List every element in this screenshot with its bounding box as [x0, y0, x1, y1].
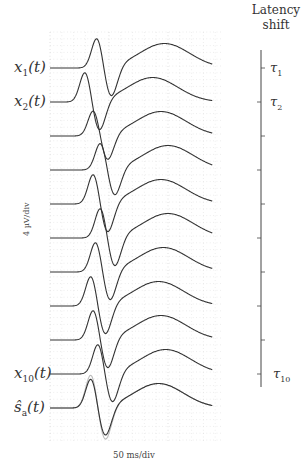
- y-scale-label: 4 µV/div: [22, 202, 31, 236]
- trace-x8t: [50, 277, 212, 334]
- true-template-trace: [50, 375, 212, 439]
- trace-x1t: [50, 39, 212, 96]
- latency-title-line2: shift: [248, 18, 304, 33]
- trace-x2t: [50, 73, 212, 130]
- tau-2-label: τ2: [270, 95, 282, 112]
- trace-x9t: [50, 311, 212, 368]
- label-x1: x1(t): [14, 60, 46, 78]
- latency-title-line1: Latency: [248, 3, 304, 18]
- trace-x7t: [50, 243, 212, 300]
- grid: [50, 32, 222, 442]
- tau-1-label: τ1: [270, 61, 282, 78]
- x-scale-label: 50 ms/div: [113, 450, 155, 460]
- trace-x10t: [50, 345, 212, 402]
- traces: [50, 39, 212, 439]
- tau-10-label: τ10: [273, 367, 290, 384]
- latency-axis-title: Latency shift: [248, 3, 304, 33]
- figure: x1(t) x2(t) x10(t) ŝa(t) Latency shift τ…: [0, 0, 304, 471]
- label-template-sa: ŝa(t): [14, 400, 45, 418]
- trace-x4t: [50, 144, 212, 195]
- latency-axis: [257, 50, 265, 387]
- label-x10: x10(t): [14, 366, 52, 384]
- label-x2: x2(t): [14, 94, 46, 112]
- trace-x5t: [50, 175, 212, 232]
